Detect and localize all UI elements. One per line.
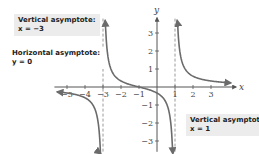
y-tick-label: −3 [141,137,153,146]
left-branch [57,92,101,154]
x-tick-label: 3 [208,90,213,99]
callout-vertical-asymptote-right: Vertical asymptote: x = 1 [186,114,259,136]
callout-vertical-asymptote-left: Vertical asymptote: x = −3 [14,14,100,36]
x-tick-label: −5 [61,90,73,99]
y-tick-label: 3 [148,29,153,38]
x-tick-label: −1 [133,90,145,99]
x-tick-label: −2 [115,90,127,99]
y-tick-label: 2 [148,47,153,56]
callout-equation: x = −3 [18,25,96,34]
y-tick-label: −2 [141,119,153,128]
callout-title: Vertical asymptote: [190,116,259,125]
callout-title: Horizontal asymptote: [12,49,100,58]
callout-equation: y = 0 [12,58,100,67]
y-tick-label: 1 [148,65,153,74]
right-branch [177,20,231,82]
callout-equation: x = 1 [190,125,259,134]
y-tick-label: −1 [141,101,153,110]
callout-title: Vertical asymptote: [18,16,96,25]
x-tick-label: 2 [190,90,195,99]
x-tick-label: −3 [97,90,109,99]
x-tick-label: 1 [172,90,177,99]
callout-horizontal-asymptote: Horizontal asymptote: y = 0 [8,47,104,69]
x-axis-label: x [239,82,244,92]
y-axis-label: y [153,5,160,15]
